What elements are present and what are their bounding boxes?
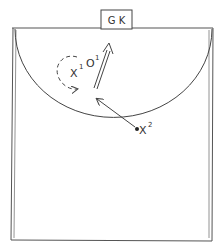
goalkeeper-box: G K bbox=[101, 10, 132, 29]
player-o1: O 1 bbox=[86, 54, 99, 70]
goalkeeper-label: G K bbox=[108, 15, 126, 26]
player-x2-symbol: X bbox=[139, 124, 147, 137]
court-outline bbox=[11, 28, 213, 241]
court-diagram: G K X 1 O 1 X 2 bbox=[0, 0, 222, 245]
player-x1-number: 1 bbox=[79, 63, 83, 71]
player-x2: X 2 bbox=[135, 121, 152, 137]
player-x2-number: 2 bbox=[148, 121, 152, 129]
goal-area-arc bbox=[15, 29, 212, 117]
pass-arrow bbox=[97, 99, 135, 127]
double-line-run-arrow bbox=[94, 43, 113, 89]
player-x1: X 1 bbox=[70, 63, 83, 80]
player-o1-symbol: O bbox=[86, 57, 95, 70]
player-o1-number: 1 bbox=[95, 54, 99, 62]
player-x1-symbol: X bbox=[70, 67, 78, 80]
